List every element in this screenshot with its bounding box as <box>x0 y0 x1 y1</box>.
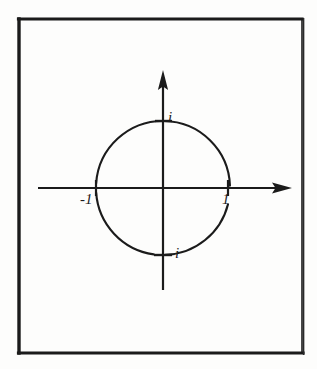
label-negative-i: -i <box>170 246 179 261</box>
figure-canvas: i -i 1 -1 <box>0 0 317 369</box>
label-negative-one: -1 <box>80 192 93 207</box>
real-axis <box>38 183 292 194</box>
diagram-svg <box>0 0 317 369</box>
label-i: i <box>168 110 172 125</box>
imaginary-axis <box>158 70 168 290</box>
page-border <box>19 19 304 353</box>
label-one: 1 <box>222 192 230 207</box>
